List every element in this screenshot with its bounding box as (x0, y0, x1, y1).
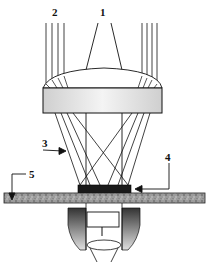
label-1: 1 (100, 6, 106, 18)
substrate (4, 193, 205, 203)
label-2: 2 (52, 6, 58, 18)
converging-rays (55, 113, 150, 185)
objective (68, 203, 140, 262)
label-4: 4 (165, 151, 171, 163)
optical-diagram: 2 1 3 4 5 (0, 0, 209, 264)
sample (78, 185, 131, 193)
label-3: 3 (42, 137, 48, 149)
condenser-lens (43, 88, 162, 113)
objective-aperture (87, 212, 119, 227)
objective-lens (87, 240, 121, 250)
label-5: 5 (29, 168, 35, 180)
label-4-pointer (135, 163, 169, 193)
